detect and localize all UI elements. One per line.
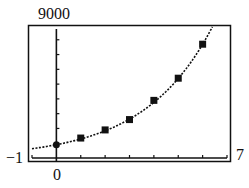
origin-label: 0: [53, 167, 61, 183]
data-point: [126, 116, 133, 123]
x-max-label: 7: [236, 147, 244, 163]
y-max-label: 9000: [38, 6, 70, 22]
data-point: [175, 75, 182, 82]
data-point: [199, 41, 206, 48]
graphing-calculator-plot: [0, 0, 249, 188]
data-point: [77, 135, 84, 142]
x-min-label: −1: [6, 150, 23, 166]
data-point: [150, 97, 157, 104]
data-point: [102, 126, 109, 133]
data-point: [53, 141, 60, 148]
